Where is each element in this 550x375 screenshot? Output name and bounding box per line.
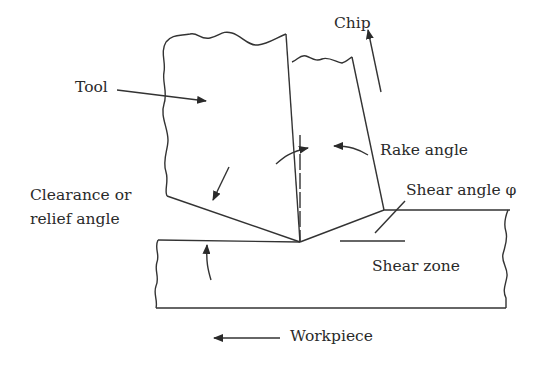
clearance-arrow-top-icon — [213, 167, 229, 200]
clearance-arrow-bottom-icon — [207, 245, 211, 280]
shear-angle-label: Shear angle φ — [406, 182, 516, 200]
clearance-angle-label-line2: relief angle — [30, 211, 120, 229]
tool-label: Tool — [75, 79, 108, 97]
tool-leader-arrow-icon — [117, 90, 206, 101]
chip-flow-arrow-icon — [368, 30, 381, 92]
chip-label: Chip — [334, 15, 371, 33]
shear-zone-label: Shear zone — [372, 258, 460, 276]
tool-outline — [163, 32, 300, 242]
shear-angle-leader — [375, 201, 405, 233]
rake-angle-label: Rake angle — [380, 142, 468, 160]
rake-angle-arrow-left-icon — [276, 148, 308, 164]
clearance-angle-label-line1: Clearance or — [30, 187, 131, 205]
rake-angle-arrow-right-icon — [334, 146, 368, 155]
workpiece-label: Workpiece — [290, 328, 373, 346]
